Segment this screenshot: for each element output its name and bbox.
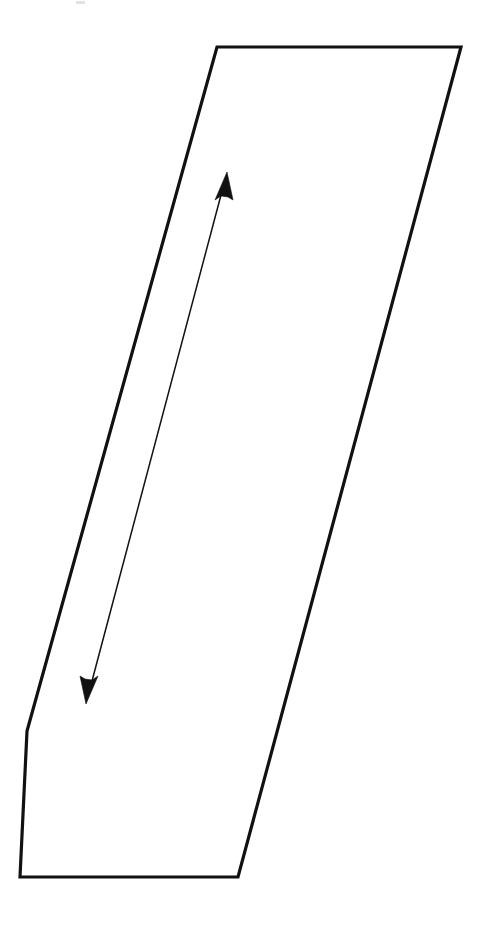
diagram-canvas	[0, 0, 497, 925]
scan-speck-top-icon	[76, 1, 85, 4]
figure-svg	[0, 0, 497, 925]
